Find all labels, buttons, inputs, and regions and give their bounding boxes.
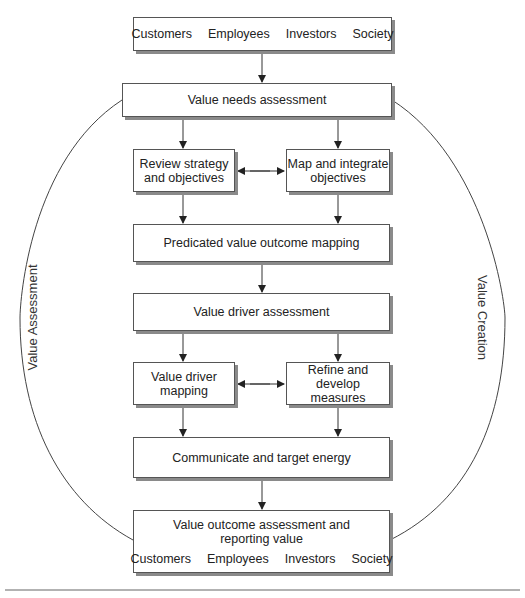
stakeholder-society: Society: [352, 552, 393, 566]
review-strategy-box: Review strategy and objectives: [133, 149, 235, 192]
box-label: Predicated value outcome mapping: [164, 236, 360, 250]
value-driver-assessment-box: Value driver assessment: [133, 293, 390, 331]
stakeholder-employees: Employees: [207, 552, 269, 566]
box-label: Communicate and target energy: [172, 451, 351, 465]
value-needs-assessment-box: Value needs assessment: [122, 83, 392, 117]
stakeholder-employees: Employees: [208, 27, 270, 41]
communicate-box: Communicate and target energy: [133, 437, 390, 478]
value-driver-mapping-box: Value driver mapping: [133, 362, 235, 405]
box-label: Value driver assessment: [194, 305, 330, 319]
box-label: reporting value: [220, 532, 303, 546]
value-creation-label: Value Creation: [475, 275, 490, 360]
stakeholder-society: Society: [353, 27, 394, 41]
box-label: Refine and: [308, 363, 368, 377]
stakeholder-customers: Customers: [131, 552, 191, 566]
stakeholders-box-top: Customers Employees Investors Society: [133, 17, 392, 51]
box-label: Value outcome assessment and: [173, 518, 350, 532]
box-label: Value needs assessment: [188, 93, 327, 107]
box-label: mapping: [160, 384, 208, 398]
stakeholder-investors: Investors: [285, 552, 336, 566]
box-label: and objectives: [144, 171, 224, 185]
predicated-mapping-box: Predicated value outcome mapping: [133, 224, 390, 262]
box-label: Map and integrate: [288, 157, 389, 171]
map-integrate-box: Map and integrate objectives: [286, 149, 390, 192]
stakeholder-customers: Customers: [132, 27, 192, 41]
box-label: Value driver: [151, 370, 217, 384]
value-assessment-label: Value Assessment: [25, 265, 40, 371]
box-label: objectives: [310, 171, 366, 185]
refine-measures-box: Refine and develop measures: [286, 362, 390, 405]
box-label: Review strategy: [140, 157, 229, 171]
value-outcome-box: Value outcome assessment and reporting v…: [133, 510, 390, 573]
box-label: develop measures: [287, 377, 389, 405]
stakeholder-investors: Investors: [286, 27, 337, 41]
